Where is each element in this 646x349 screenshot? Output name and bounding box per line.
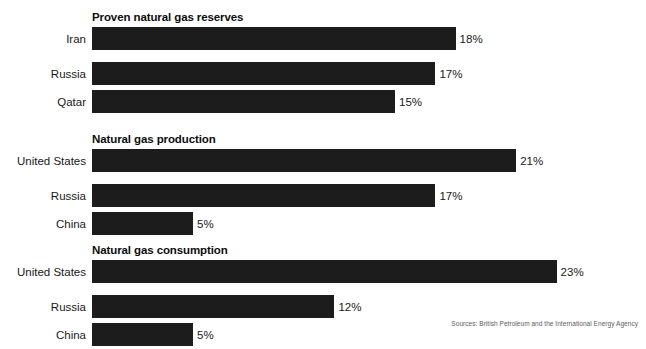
bar-value-label: 15% <box>399 95 422 108</box>
bar-row: Russia 17% <box>0 184 646 207</box>
bar-fill <box>92 149 516 172</box>
chart-section-production: Natural gas production United States 21%… <box>0 133 646 245</box>
bar-fill <box>92 62 435 85</box>
bar-row: Qatar 15% <box>0 90 646 113</box>
bar-row: United States 23% <box>0 260 646 283</box>
bar-row: United States 21% <box>0 149 646 172</box>
bar-value-label: 21% <box>520 154 543 167</box>
bar-value-label: 12% <box>338 300 361 313</box>
bar-row-label: United States <box>0 154 86 167</box>
bar-row-label: Iran <box>0 32 86 45</box>
chart-section-reserves: Proven natural gas reserves Iran 18% Rus… <box>0 11 646 123</box>
bar-value-label: 5% <box>197 328 214 341</box>
grouped-bar-chart: Proven natural gas reserves Iran 18% Rus… <box>0 0 646 349</box>
bar-row: China 5% <box>0 212 646 235</box>
bar-row-label: Russia <box>0 300 86 313</box>
bar-row: Russia 17% <box>0 62 646 85</box>
bar-fill <box>92 212 193 235</box>
bar-row-label: China <box>0 217 86 230</box>
bar-value-label: 18% <box>460 32 483 45</box>
bar-row-label: Qatar <box>0 95 86 108</box>
bar-value-label: 5% <box>197 217 214 230</box>
section-title-production: Natural gas production <box>92 133 216 145</box>
bar-row-label: United States <box>0 265 86 278</box>
chart-section-consumption: Natural gas consumption United States 23… <box>0 244 646 349</box>
bar-row-label: China <box>0 328 86 341</box>
bar-value-label: 23% <box>561 265 584 278</box>
bar-fill <box>92 295 334 318</box>
bar-value-label: 17% <box>439 189 462 202</box>
bar-fill <box>92 260 557 283</box>
bar-fill <box>92 90 395 113</box>
bar-fill <box>92 323 193 346</box>
bar-fill <box>92 184 435 207</box>
bar-row: Iran 18% <box>0 27 646 50</box>
bar-row: Russia 12% <box>0 295 646 318</box>
bar-row-label: Russia <box>0 189 86 202</box>
bar-row-label: Russia <box>0 67 86 80</box>
section-title-consumption: Natural gas consumption <box>92 244 228 256</box>
section-title-reserves: Proven natural gas reserves <box>92 11 243 23</box>
bar-value-label: 17% <box>439 67 462 80</box>
bar-fill <box>92 27 456 50</box>
source-note: Sources: British Petroleum and the Inter… <box>451 320 638 328</box>
